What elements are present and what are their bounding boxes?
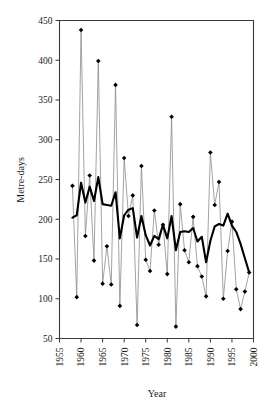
data-point-marker — [174, 324, 179, 329]
x-tick-label: 1980 — [163, 347, 173, 366]
x-axis-ticks — [60, 339, 254, 343]
y-axis-ticks — [56, 21, 60, 339]
data-point-marker — [178, 202, 183, 207]
data-point-marker — [199, 274, 204, 279]
data-point-marker — [122, 156, 127, 161]
x-tick-label: 1985 — [184, 347, 194, 366]
x-tick-label: 1970 — [120, 347, 130, 366]
data-point-marker — [100, 281, 105, 286]
data-point-marker — [113, 83, 118, 88]
data-point-marker — [225, 249, 230, 254]
x-tick-label: 1955 — [55, 347, 65, 366]
data-point-marker — [221, 296, 226, 301]
y-tick-label: 50 — [43, 334, 53, 344]
time-series-chart: 50100150200250300350400450 1955196019651… — [0, 0, 275, 407]
data-point-marker — [135, 323, 140, 328]
y-axis-tick-labels: 50100150200250300350400450 — [38, 16, 53, 344]
y-tick-label: 400 — [38, 56, 53, 66]
data-point-marker — [87, 173, 92, 178]
data-point-marker — [217, 180, 222, 185]
data-point-marker — [74, 295, 79, 300]
data-point-marker — [165, 272, 170, 277]
x-axis-title: Year — [148, 388, 167, 399]
data-point-marker — [212, 203, 217, 208]
data-point-marker — [247, 270, 252, 275]
x-tick-label: 1960 — [76, 347, 86, 366]
data-point-marker — [169, 114, 174, 119]
x-tick-label: 1995 — [227, 347, 237, 366]
y-tick-label: 250 — [38, 175, 53, 185]
data-point-marker — [152, 208, 157, 213]
y-tick-label: 450 — [38, 16, 53, 26]
data-point-marker — [234, 287, 239, 292]
data-point-marker — [143, 257, 148, 262]
data-point-marker — [204, 294, 209, 299]
data-point-marker — [130, 193, 135, 198]
x-tick-label: 1975 — [141, 347, 151, 366]
chart-figure: 50100150200250300350400450 1955196019651… — [0, 0, 275, 407]
y-tick-label: 300 — [38, 135, 53, 145]
x-tick-label: 1965 — [98, 347, 108, 366]
data-point-marker — [195, 264, 200, 269]
x-axis-tick-labels: 1955196019651970197519801985199019952000 — [55, 347, 259, 366]
y-axis-title: Metre-days — [15, 157, 26, 203]
data-point-marker — [92, 258, 97, 263]
data-point-marker — [105, 244, 110, 249]
data-point-marker — [118, 304, 123, 309]
data-point-marker — [156, 242, 161, 247]
y-tick-label: 150 — [38, 254, 53, 264]
data-point-marker — [126, 214, 131, 219]
data-point-marker — [243, 289, 248, 294]
data-point-marker — [182, 248, 187, 253]
data-point-marker — [70, 184, 75, 189]
x-tick-label: 1990 — [206, 347, 216, 366]
data-point-marker — [96, 59, 101, 64]
data-point-marker — [191, 215, 196, 220]
data-point-marker — [139, 164, 144, 169]
data-point-marker — [238, 307, 243, 312]
x-tick-label: 2000 — [249, 347, 259, 366]
y-tick-label: 200 — [38, 215, 53, 225]
data-point-marker — [83, 234, 88, 239]
data-point-marker — [79, 28, 84, 33]
y-tick-label: 350 — [38, 95, 53, 105]
data-point-marker — [208, 150, 213, 155]
data-point-marker — [109, 282, 114, 287]
y-tick-label: 100 — [38, 294, 53, 304]
data-point-marker — [187, 260, 192, 265]
data-point-marker — [148, 269, 153, 274]
